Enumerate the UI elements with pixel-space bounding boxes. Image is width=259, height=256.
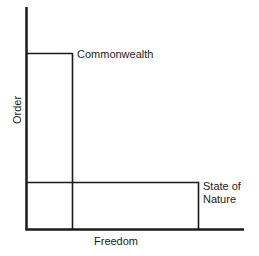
state-of-nature-label-line2: Nature xyxy=(203,193,236,205)
diagram-canvas xyxy=(0,0,259,256)
commonwealth-label: Commonwealth xyxy=(77,48,153,60)
state-of-nature-rectangle xyxy=(27,183,199,230)
commonwealth-rectangle xyxy=(27,54,73,230)
state-of-nature-label-line1: State of xyxy=(203,180,241,192)
y-axis-label: Order xyxy=(11,95,23,125)
x-axis-label: Freedom xyxy=(94,235,138,247)
